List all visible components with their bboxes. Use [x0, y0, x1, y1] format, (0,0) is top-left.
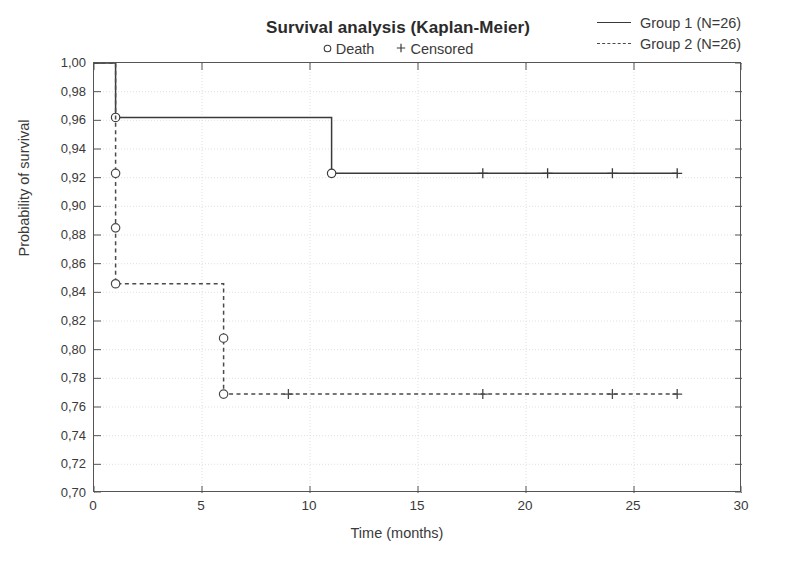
censored-marker	[672, 168, 682, 178]
censored-marker	[478, 389, 488, 399]
subtitle-death-entry: Death	[323, 40, 375, 57]
censored-marker	[607, 389, 617, 399]
y-axis-title-wrap: Probability of survival	[0, 0, 40, 430]
series-line-1	[94, 63, 677, 173]
legend-label-group-2: Group 2 (N=26)	[640, 36, 741, 52]
legend-item-group-2: Group 2 (N=26)	[597, 33, 741, 54]
y-axis-title: Probability of survival	[16, 78, 32, 298]
censored-marker	[283, 389, 293, 399]
death-marker	[111, 224, 119, 232]
censored-marker	[478, 168, 488, 178]
chart-subtitle: Death Censored	[228, 40, 568, 57]
death-marker	[219, 390, 227, 398]
subtitle-censored-entry: Censored	[396, 40, 473, 57]
circle-icon	[323, 40, 332, 56]
death-marker	[111, 280, 119, 288]
x-tick-label: 15	[392, 498, 442, 513]
censored-marker	[672, 389, 682, 399]
legend-item-group-1: Group 1 (N=26)	[597, 12, 741, 33]
censored-marker	[607, 168, 617, 178]
x-tick-label: 10	[284, 498, 334, 513]
subtitle-death-label: Death	[336, 41, 375, 57]
x-axis-title: Time (months)	[0, 525, 794, 541]
plus-icon	[396, 40, 406, 56]
chart-legend: Group 1 (N=26) Group 2 (N=26)	[597, 12, 741, 54]
death-marker	[219, 334, 227, 342]
legend-line-dashed-icon	[597, 38, 631, 49]
x-tick-label: 30	[716, 498, 766, 513]
death-marker	[327, 169, 335, 177]
legend-label-group-1: Group 1 (N=26)	[640, 15, 741, 31]
subtitle-censored-label: Censored	[410, 41, 473, 57]
legend-line-solid-icon	[597, 17, 631, 28]
plot-area	[93, 62, 741, 492]
x-tick-label: 20	[500, 498, 550, 513]
censored-marker	[543, 168, 553, 178]
x-tick-label: 0	[68, 498, 118, 513]
y-tick-label: 0,72	[30, 456, 86, 471]
chart-title: Survival analysis (Kaplan-Meier)	[228, 18, 568, 38]
x-tick-label: 25	[608, 498, 658, 513]
x-tick-label: 5	[176, 498, 226, 513]
death-marker	[111, 169, 119, 177]
series-line-2	[94, 63, 677, 394]
plot-canvas	[94, 63, 742, 493]
chart-page: Survival analysis (Kaplan-Meier) Death C…	[0, 0, 794, 563]
